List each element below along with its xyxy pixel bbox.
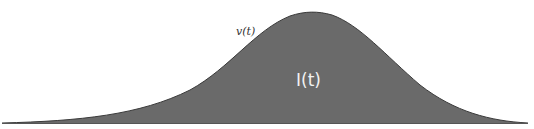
bell-curve-diagram: v(t) I(t) xyxy=(0,0,534,129)
area-label: I(t) xyxy=(296,70,321,90)
area-under-curve xyxy=(2,12,528,124)
curve-label: v(t) xyxy=(236,25,255,38)
